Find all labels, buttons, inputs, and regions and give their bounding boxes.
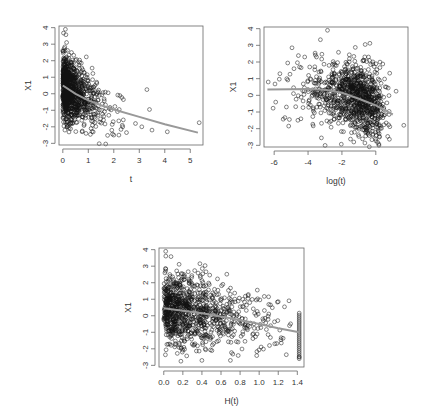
y-tick-label: -3: [246, 141, 255, 149]
x-tick-label: 5: [188, 156, 193, 165]
x-tick-label: 3: [137, 156, 142, 165]
x-tick-label: 2: [112, 156, 117, 165]
x-tick-label: 0: [374, 158, 379, 167]
y-axis: -3-2-101234: [246, 26, 260, 149]
x-tick-label: -2: [338, 158, 346, 167]
y-axis: -3-2-101234: [141, 247, 155, 369]
y-tick-label: -1: [246, 108, 255, 116]
y-tick-label: 3: [141, 263, 150, 268]
y-axis-title: X1: [23, 80, 33, 91]
scatter-plot-1: 012345t-3-2-101234X1: [23, 25, 203, 184]
y-tick-label: 4: [141, 247, 150, 252]
y-tick-label: 1: [141, 296, 150, 301]
y-tick-label: 0: [246, 93, 255, 98]
y-tick-label: -2: [246, 125, 255, 133]
y-tick-label: -1: [141, 328, 150, 336]
x-tick-label: 1.0: [254, 378, 266, 387]
x-axis-title: H(t): [224, 396, 238, 406]
y-tick-label: 3: [41, 41, 50, 46]
scatter-plot-2: -6-4-20log(t)-3-2-101234X1: [228, 26, 408, 186]
y-tick-label: 2: [141, 280, 150, 285]
x-axis: -6-4-20: [271, 151, 379, 167]
x-tick-label: -6: [271, 158, 279, 167]
x-tick-label: -4: [304, 158, 312, 167]
x-tick-label: 0.8: [235, 378, 247, 387]
x-tick-label: 1.2: [273, 378, 285, 387]
y-tick-label: -2: [141, 345, 150, 353]
x-axis-title: log(t): [326, 176, 346, 186]
x-tick-label: 4: [163, 156, 168, 165]
y-tick-label: 4: [246, 26, 255, 31]
y-tick-label: 1: [246, 76, 255, 81]
x-axis-title: t: [130, 174, 133, 184]
y-tick-label: 2: [41, 58, 50, 63]
y-tick-label: 0: [141, 313, 150, 318]
x-tick-label: 1: [86, 156, 91, 165]
x-axis: 0.00.20.40.60.81.01.21.4: [158, 371, 303, 387]
x-tick-label: 0: [61, 156, 66, 165]
y-axis-title: X1: [123, 302, 133, 313]
y-tick-label: -3: [141, 361, 150, 369]
x-axis: 012345: [61, 149, 193, 165]
x-tick-label: 0.6: [215, 378, 227, 387]
y-tick-label: 4: [41, 25, 50, 30]
y-tick-label: 1: [41, 74, 50, 79]
y-axis-title: X1: [228, 82, 238, 93]
y-axis: -3-2-101234: [41, 25, 55, 147]
y-tick-label: 0: [41, 91, 50, 96]
figure-canvas: 012345t-3-2-101234X1-6-4-20log(t)-3-2-10…: [0, 0, 428, 417]
x-tick-label: 0.2: [177, 378, 189, 387]
y-tick-label: -3: [41, 139, 50, 147]
y-tick-label: 3: [246, 43, 255, 48]
x-tick-label: 1.4: [292, 378, 304, 387]
x-tick-label: 0.0: [158, 378, 170, 387]
scatter-plot-3: 0.00.20.40.60.81.01.21.4H(t)-3-2-101234X…: [123, 247, 304, 406]
x-tick-label: 0.4: [196, 378, 208, 387]
y-tick-label: 2: [246, 59, 255, 64]
y-tick-label: -2: [41, 123, 50, 131]
data-points: [162, 249, 301, 363]
y-tick-label: -1: [41, 106, 50, 114]
